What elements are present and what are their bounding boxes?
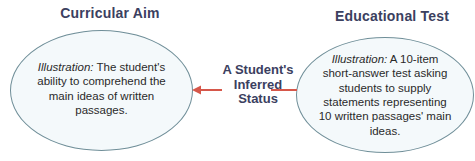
connector-line <box>271 89 297 91</box>
inferred-status-line1: A Student's <box>218 63 298 78</box>
arrow-left-icon <box>192 85 222 95</box>
educational-test-description: A 10-item short-answer test asking stude… <box>319 53 452 136</box>
curricular-aim-heading: Curricular Aim <box>50 5 170 21</box>
illustration-label: Illustration: <box>332 53 388 65</box>
educational-test-heading: Educational Test <box>324 8 460 24</box>
educational-test-ellipse: Illustration: A 10-item short-answer tes… <box>296 37 474 153</box>
inferred-status-label: A Student's Inferred Status <box>218 63 298 107</box>
curricular-aim-ellipse: Illustration: The student's ability to c… <box>10 30 193 151</box>
educational-test-text: Illustration: A 10-item short-answer tes… <box>318 52 453 138</box>
illustration-label: Illustration: <box>38 61 94 73</box>
inferred-status-line3: Status <box>218 92 298 107</box>
curricular-aim-text: Illustration: The student's ability to c… <box>37 60 167 117</box>
